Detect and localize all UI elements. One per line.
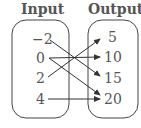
output-value: 20 xyxy=(104,91,122,107)
input-value: −2 xyxy=(32,31,53,47)
input-value: 4 xyxy=(36,91,45,107)
arrow-0-20 xyxy=(49,58,100,95)
output-value: 10 xyxy=(104,49,122,65)
input-value: 2 xyxy=(36,70,45,86)
output-value: 15 xyxy=(104,70,122,86)
input-value: 0 xyxy=(36,50,45,66)
output-value: 5 xyxy=(108,29,117,45)
